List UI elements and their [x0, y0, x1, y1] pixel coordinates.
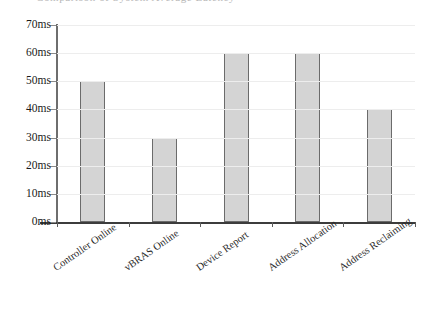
y-axis-tick-label-wrap: 10ms [0, 188, 51, 200]
gridline [57, 166, 415, 167]
y-axis-tick-label: 60ms [5, 47, 51, 59]
x-axis-tick-mark [415, 222, 416, 227]
y-axis-tick-label: 50ms [5, 75, 51, 87]
gridline [57, 25, 415, 26]
plot-area [57, 25, 415, 222]
bar[interactable] [80, 81, 105, 222]
y-axis-tick-label-wrap: 50ms [0, 75, 51, 87]
gridline [57, 81, 415, 82]
y-axis-tick-label: 10ms [5, 188, 51, 200]
x-axis-tick-mark [200, 222, 201, 227]
x-axis-tick-mark [343, 222, 344, 227]
y-axis-tick-label: 70ms [5, 19, 51, 31]
y-axis-tick-label-wrap: 70ms [0, 19, 51, 31]
y-axis-tick-label: 30ms [5, 132, 51, 144]
x-axis-label: Address Allocation [266, 218, 338, 273]
y-axis-tick-label-wrap: 40ms [0, 103, 51, 115]
x-axis-line [40, 222, 415, 224]
x-axis-tick-mark [129, 222, 130, 227]
y-axis-tick-label-wrap: 0ms [0, 216, 51, 228]
gridline [57, 194, 415, 195]
y-axis-tick-label: 0ms [5, 216, 51, 228]
gridline [57, 53, 415, 54]
bar-chart-figure: Comparison of System Average Latency 0ms… [0, 0, 439, 316]
bar[interactable] [152, 138, 177, 222]
y-axis-tick-label: 20ms [5, 160, 51, 172]
x-axis-tick-mark [272, 222, 273, 227]
y-axis-tick-label-wrap: 20ms [0, 160, 51, 172]
gridline [57, 109, 415, 110]
x-axis-label: Controller Online [51, 221, 118, 273]
x-axis-label: vBRAS Online [122, 227, 181, 273]
y-axis-tick-label: 40ms [5, 103, 51, 115]
y-axis-tick-label-wrap: 60ms [0, 47, 51, 59]
cropped-title-text: Comparison of System Average Latency [36, 0, 276, 3]
x-axis-label: Device Report [194, 229, 250, 273]
x-axis-tick-mark [57, 222, 58, 227]
gridline [57, 138, 415, 139]
y-axis-tick-label-wrap: 30ms [0, 132, 51, 144]
